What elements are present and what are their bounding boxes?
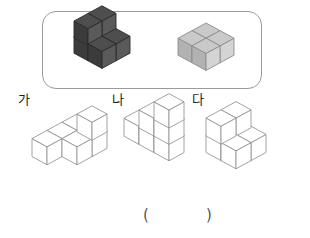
choice-figure-na[interactable]	[122, 106, 204, 204]
worksheet-canvas: 가 나 다 ( )	[0, 0, 310, 238]
choice-label-na: 나	[112, 93, 124, 106]
choice-label-da: 다	[192, 93, 204, 106]
answer-paren-close: )	[206, 208, 212, 223]
answer-paren-open: (	[143, 208, 149, 223]
light-solid-figure	[176, 24, 236, 76]
dark-solid-figure	[72, 16, 132, 78]
choice-label-ga: 가	[18, 93, 30, 106]
choice-figure-da[interactable]	[204, 112, 294, 204]
choice-figure-ga[interactable]	[30, 106, 122, 204]
